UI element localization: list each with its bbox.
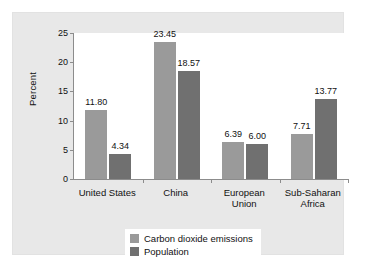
bar — [85, 110, 107, 179]
bar-value-label: 13.77 — [314, 87, 337, 96]
y-axis-label: Percent — [27, 72, 38, 106]
bar — [178, 71, 200, 179]
bar-value-label: 6.00 — [248, 132, 266, 141]
x-axis-category-label-line: Africa — [285, 198, 341, 209]
y-axis-tick-mark — [70, 121, 74, 122]
bar — [246, 144, 268, 179]
plot-area: 0510152025 11.804.3423.4518.576.396.007.… — [73, 33, 348, 180]
x-axis-category-label-line: Sub-Saharan — [285, 187, 341, 198]
bar — [109, 154, 131, 179]
y-axis-tick-mark — [70, 33, 74, 34]
bar-value-label: 6.39 — [224, 130, 242, 139]
chart-figure: Percent 0510152025 11.804.3423.4518.576.… — [0, 0, 368, 273]
x-axis-category-label-line: China — [163, 187, 188, 198]
x-axis-category-label-line: United States — [79, 187, 136, 198]
x-axis-tick-mark — [280, 179, 281, 183]
chart-legend: Carbon dioxide emissions Population — [125, 229, 261, 262]
x-axis-category-label-line: Union — [224, 198, 265, 209]
bar-value-label: 18.57 — [177, 59, 200, 68]
chart-panel: Percent 0510152025 11.804.3423.4518.576.… — [12, 12, 344, 255]
bar-value-label: 4.34 — [111, 142, 129, 151]
x-axis-tick-mark — [143, 179, 144, 183]
legend-swatch-population — [130, 247, 139, 256]
x-axis-category-label: EuropeanUnion — [224, 187, 265, 209]
y-axis-tick-mark — [70, 179, 74, 180]
x-axis-tick-mark — [211, 179, 212, 183]
bar — [315, 99, 337, 179]
bar — [222, 142, 244, 179]
bar-value-label: 23.45 — [153, 30, 176, 39]
legend-item[interactable]: Population — [130, 245, 253, 258]
legend-swatch-carbon-dioxide-emissions — [130, 234, 139, 243]
legend-item[interactable]: Carbon dioxide emissions — [130, 232, 253, 245]
bar-value-label: 7.71 — [293, 122, 311, 131]
x-axis-tick-mark — [348, 179, 349, 183]
bar-value-label: 11.80 — [85, 98, 107, 107]
legend-label: Population — [144, 246, 189, 257]
x-axis-category-label: China — [163, 187, 188, 198]
y-axis-tick-mark — [70, 62, 74, 63]
bar — [291, 134, 313, 179]
x-axis-category-label: Sub-SaharanAfrica — [285, 187, 341, 209]
x-axis-category-label-line: European — [224, 187, 265, 198]
y-axis-tick-mark — [70, 91, 74, 92]
y-axis-tick-mark — [70, 150, 74, 151]
bar — [154, 42, 176, 179]
x-axis-category-label: United States — [79, 187, 136, 198]
legend-label: Carbon dioxide emissions — [144, 233, 253, 244]
